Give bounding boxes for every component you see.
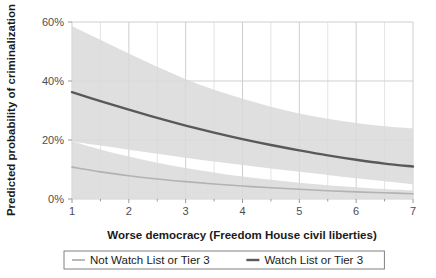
y-tick-label: 40% xyxy=(42,75,64,87)
x-axis-tick-labels: 1234567 xyxy=(69,205,416,217)
x-tick-label: 6 xyxy=(353,205,359,217)
chart-figure: 0%20%40%60% 1234567 Worse democracy (Fre… xyxy=(0,0,436,278)
x-tick-label: 3 xyxy=(183,205,189,217)
legend-label-1[interactable]: Not Watch List or Tier 3 xyxy=(90,254,210,266)
x-tick-label: 1 xyxy=(69,205,75,217)
predicted-probability-line-chart: 0%20%40%60% 1234567 Worse democracy (Fre… xyxy=(0,0,436,278)
x-tick-label: 5 xyxy=(296,205,302,217)
legend-label-2[interactable]: Watch List or Tier 3 xyxy=(264,254,363,266)
y-tick-label: 60% xyxy=(42,16,64,28)
y-tick-label: 20% xyxy=(42,134,64,146)
chart-legend: Not Watch List or Tier 3Watch List or Ti… xyxy=(64,251,384,269)
x-tick-label: 7 xyxy=(410,205,416,217)
x-tick-label: 4 xyxy=(239,205,245,217)
y-axis-tick-labels: 0%20%40%60% xyxy=(42,16,64,205)
y-axis-title: Predicted probability of criminalization xyxy=(5,4,17,216)
y-tick-label: 0% xyxy=(48,193,64,205)
x-axis-title: Worse democracy (Freedom House civil lib… xyxy=(107,229,377,241)
x-tick-label: 2 xyxy=(126,205,132,217)
